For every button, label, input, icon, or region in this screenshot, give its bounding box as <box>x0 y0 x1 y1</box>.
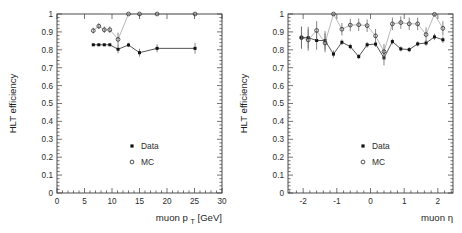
x-tick-label: 15 <box>135 197 145 206</box>
eta-plot-frame <box>288 14 453 193</box>
y-tick-label: 1 <box>48 10 53 19</box>
y-tick-label: 0.6 <box>273 82 285 91</box>
y-tick-label: 0.9 <box>42 28 54 37</box>
y-tick-label: 0.9 <box>273 28 285 37</box>
data-point-marker <box>117 48 120 51</box>
data-point-marker <box>332 53 335 56</box>
y-tick-label: 0.4 <box>42 117 54 126</box>
mc-connector-line <box>301 14 442 52</box>
y-tick-label: 0.8 <box>273 46 285 55</box>
x-axis-title: muon p T [GeV] <box>156 212 222 225</box>
y-tick-label: 0 <box>48 189 53 198</box>
data-point-marker <box>127 43 130 46</box>
efficiency-figure: 00.10.20.30.40.50.60.70.80.9105101520253… <box>0 0 462 233</box>
pt-plot-labels: 00.10.20.30.40.50.60.70.80.9105101520253… <box>7 10 227 225</box>
y-axis-title: HLT efficiency <box>238 73 249 133</box>
y-tick-label: 0.2 <box>42 153 54 162</box>
x-axis-title-unit: [GeV] <box>195 212 222 223</box>
data-point-marker <box>391 40 394 43</box>
y-tick-label: 0.8 <box>42 46 54 55</box>
pt-efficiency-panel: 00.10.20.30.40.50.60.70.80.9105101520253… <box>0 0 231 233</box>
eta-efficiency-panel: 00.10.20.30.40.50.60.70.80.91-2-1012Data… <box>231 0 462 233</box>
legend-label: Data <box>141 141 159 151</box>
x-tick-label: 10 <box>107 197 117 206</box>
plot-frame-box <box>57 14 222 193</box>
y-tick-label: 0.3 <box>273 135 285 144</box>
legend-label: MC <box>372 157 385 167</box>
data-point-marker <box>156 47 159 50</box>
x-axis-title: muon η <box>421 212 453 223</box>
eta-plot-labels: 00.10.20.30.40.50.60.70.80.91-2-1012Data… <box>238 10 453 223</box>
data-point-marker <box>416 42 419 45</box>
data-point-marker <box>349 45 352 48</box>
y-tick-label: 0.6 <box>42 82 54 91</box>
x-tick-label: 30 <box>217 197 227 206</box>
legend-mc-marker <box>361 160 365 164</box>
data-point-marker <box>138 51 141 54</box>
x-tick-label: 0 <box>55 197 60 206</box>
x-tick-label: 0 <box>368 197 373 206</box>
data-point-marker <box>108 43 111 46</box>
y-axis-title: HLT efficiency <box>7 73 18 133</box>
x-tick-label: 2 <box>436 197 441 206</box>
x-axis-title-main: muon p <box>156 212 191 223</box>
data-point-marker <box>408 48 411 51</box>
plot-frame-box <box>288 14 453 193</box>
legend-label: Data <box>372 141 390 151</box>
y-tick-label: 1 <box>279 10 284 19</box>
data-point-marker <box>399 47 402 50</box>
y-tick-label: 0.4 <box>273 117 285 126</box>
y-tick-label: 0.1 <box>42 171 54 180</box>
data-point-marker <box>425 41 428 44</box>
data-point-marker <box>103 43 106 46</box>
x-tick-label: 25 <box>190 197 200 206</box>
x-tick-label: 5 <box>82 197 87 206</box>
data-point-marker <box>357 55 360 58</box>
data-point-marker <box>194 47 197 50</box>
data-point-marker <box>374 43 377 46</box>
eta-plot-canvas: 00.10.20.30.40.50.60.70.80.91-2-1012Data… <box>231 0 462 233</box>
mc-connector-line <box>93 14 195 39</box>
y-tick-label: 0 <box>279 189 284 198</box>
x-tick-label: -2 <box>300 197 308 206</box>
pt-plot-ticks <box>57 14 222 193</box>
legend-data-marker <box>361 144 364 147</box>
eta-plot-ticks <box>288 14 453 193</box>
data-point-marker <box>97 43 100 46</box>
y-tick-label: 0.1 <box>273 171 285 180</box>
y-tick-label: 0.7 <box>42 64 54 73</box>
data-point-marker <box>92 43 95 46</box>
legend-mc-marker <box>130 160 134 164</box>
y-tick-label: 0.5 <box>42 99 54 108</box>
pt-plot-canvas: 00.10.20.30.40.50.60.70.80.9105101520253… <box>0 0 231 233</box>
x-tick-label: 1 <box>402 197 407 206</box>
y-tick-label: 0.2 <box>273 153 285 162</box>
legend-data-marker <box>130 144 133 147</box>
legend-label: MC <box>141 157 154 167</box>
x-tick-label: 20 <box>162 197 172 206</box>
y-tick-label: 0.7 <box>273 64 285 73</box>
data-point-marker <box>433 35 436 38</box>
x-tick-label: -1 <box>333 197 341 206</box>
data-connector-line <box>301 37 442 58</box>
y-tick-label: 0.5 <box>273 99 285 108</box>
data-point-marker <box>441 38 444 41</box>
pt-plot-frame <box>57 14 222 193</box>
data-point-marker <box>340 41 343 44</box>
data-point-marker <box>366 43 369 46</box>
y-tick-label: 0.3 <box>42 135 54 144</box>
